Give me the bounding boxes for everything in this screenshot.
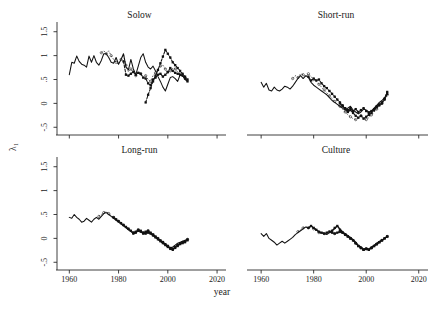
series-marker [159, 62, 161, 64]
series-marker [336, 225, 338, 227]
series-marker [326, 232, 328, 234]
series-marker [147, 94, 149, 96]
series-marker [320, 232, 322, 234]
series-line-dashed-marker-line-a [308, 77, 387, 113]
y-tick-label: 1.5 [40, 27, 49, 37]
y-tick-label: -.5 [40, 123, 49, 132]
series-marker [383, 98, 385, 100]
series-marker [145, 232, 147, 234]
series-marker [130, 230, 132, 232]
series-marker [352, 112, 354, 114]
series-marker [179, 70, 181, 72]
x-tick-label: 2020 [411, 275, 427, 284]
y-axis-label-group: λ₁ [8, 143, 18, 151]
series-marker [334, 227, 336, 229]
series-marker [341, 105, 343, 107]
series-marker [127, 75, 129, 77]
series-marker [169, 56, 171, 58]
series-marker [307, 75, 309, 77]
series-marker [355, 108, 357, 110]
series-marker [140, 231, 142, 233]
x-tick-label: 2000 [358, 275, 374, 284]
series-marker-open [307, 73, 309, 75]
y-tick-label: 0 [40, 236, 49, 240]
chart-canvas: Solow-.50.511.5Short-runLong-run-.50.511… [0, 0, 444, 317]
series-marker [177, 245, 179, 247]
series-marker [157, 74, 159, 76]
series-marker [339, 229, 341, 231]
series-marker [167, 71, 169, 73]
series-marker [179, 243, 181, 245]
series-marker [310, 79, 312, 81]
series-marker [154, 75, 156, 77]
series-marker [326, 87, 328, 89]
series-marker [320, 82, 322, 84]
series-marker [344, 233, 346, 235]
series-marker [378, 241, 380, 243]
series-marker [115, 218, 117, 220]
series-marker [152, 80, 154, 82]
series-marker [328, 90, 330, 92]
series-marker [172, 70, 174, 72]
series-marker [184, 75, 186, 77]
series-marker [331, 230, 333, 232]
y-tick-label: 1.5 [40, 162, 49, 172]
series-marker [349, 237, 351, 239]
x-tick-label: 2000 [160, 275, 176, 284]
series-marker [167, 246, 169, 248]
series-marker [341, 232, 343, 234]
series-marker [373, 245, 375, 247]
series-marker [336, 232, 338, 234]
series-marker [125, 74, 127, 76]
series-marker [164, 244, 166, 246]
series-marker-open [130, 68, 132, 70]
series-marker [132, 232, 134, 234]
series-marker [132, 71, 134, 73]
series-marker [174, 72, 176, 74]
panel-title-culture: Culture [322, 145, 351, 155]
series-marker [318, 78, 320, 80]
series-marker [137, 72, 139, 74]
series-marker-open [115, 61, 117, 63]
series-marker [323, 232, 325, 234]
series-marker-open [349, 116, 351, 118]
x-tick-label: 1980 [111, 275, 127, 284]
x-tick-label: 2020 [209, 275, 225, 284]
panel-solow: Solow-.50.511.5 [40, 10, 226, 139]
series-marker [174, 64, 176, 66]
series-marker [339, 102, 341, 104]
series-marker [184, 241, 186, 243]
series-marker [135, 232, 137, 234]
series-marker [355, 115, 357, 117]
series-marker [157, 238, 159, 240]
series-marker [347, 235, 349, 237]
series-marker [357, 117, 359, 119]
series-marker [162, 75, 164, 77]
series-marker [145, 77, 147, 79]
series-marker [149, 232, 151, 234]
series-marker [355, 242, 357, 244]
panel-title-short-run: Short-run [318, 10, 355, 20]
series-marker [117, 220, 119, 222]
series-marker [318, 231, 320, 233]
series-line-dashed-marker-line-a [308, 226, 387, 250]
series-marker [362, 118, 364, 120]
series-marker [174, 247, 176, 249]
x-tick-label: 1980 [306, 275, 322, 284]
series-marker [186, 239, 188, 241]
series-marker [349, 109, 351, 111]
series-marker [334, 96, 336, 98]
series-marker [357, 111, 359, 113]
series-marker [159, 73, 161, 75]
y-tick-label: -.5 [40, 258, 49, 267]
series-marker [315, 229, 317, 231]
series-line-solid-line [261, 76, 387, 114]
series-marker [365, 116, 367, 118]
series-marker [169, 67, 171, 69]
series-marker [381, 102, 383, 104]
series-marker [181, 242, 183, 244]
series-marker [362, 249, 364, 251]
series-marker [159, 240, 161, 242]
x-tick-label: 1960 [61, 275, 77, 284]
series-marker [142, 76, 144, 78]
